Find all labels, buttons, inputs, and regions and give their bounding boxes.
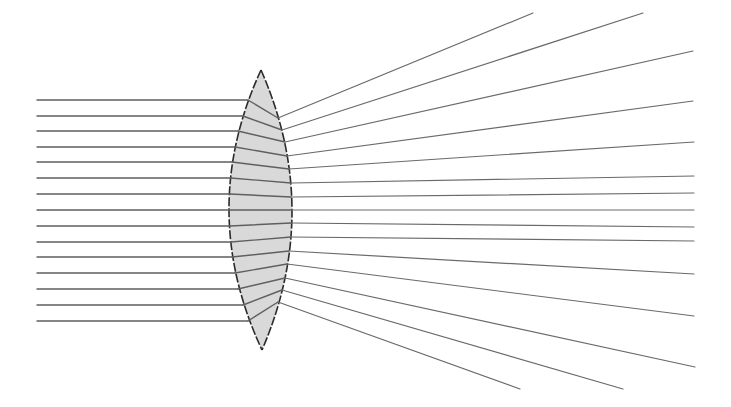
incident-rays xyxy=(37,100,248,321)
refracted-ray xyxy=(289,251,694,274)
refracted-ray xyxy=(285,278,695,367)
refracted-ray xyxy=(291,193,694,197)
refracted-ray xyxy=(291,176,694,183)
refracted-ray xyxy=(289,142,694,169)
diagram-canvas xyxy=(0,0,731,407)
refracted-ray xyxy=(291,237,694,241)
refracted-rays xyxy=(278,13,695,389)
refracted-ray xyxy=(291,223,694,227)
refracted-ray xyxy=(278,302,520,389)
refracted-ray xyxy=(278,13,533,118)
refracted-ray xyxy=(282,290,623,389)
refracted-ray xyxy=(282,13,643,130)
lens-diagram: Parallel rays refracted by a biconvex le… xyxy=(0,0,731,407)
refracted-ray xyxy=(287,264,694,316)
